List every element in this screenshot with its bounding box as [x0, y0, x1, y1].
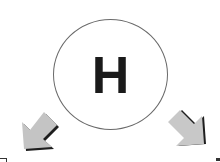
corner-mark-left-vertical	[6, 158, 7, 162]
diagram-canvas: H	[0, 0, 220, 162]
corner-mark-right	[216, 158, 220, 161]
arrow-down-left-icon	[14, 106, 62, 154]
center-letter: H	[53, 19, 168, 130]
arrow-down-right-icon	[162, 104, 210, 152]
